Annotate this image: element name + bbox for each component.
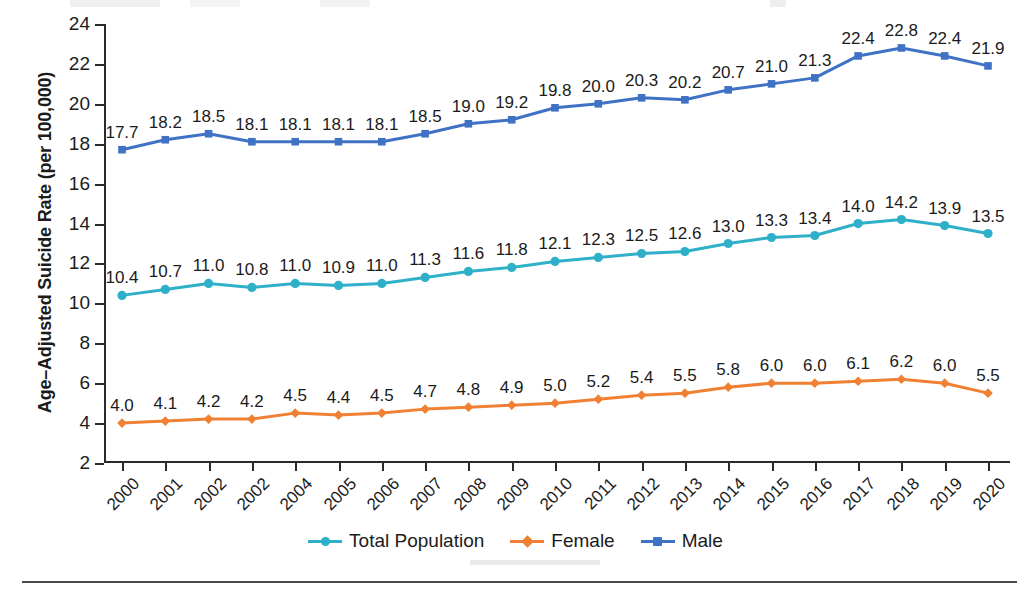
legend-label: Female (551, 530, 614, 552)
data-point-label: 4.2 (197, 392, 221, 412)
data-point-marker (377, 408, 387, 418)
data-point-marker (464, 267, 473, 276)
data-point-marker (118, 146, 126, 154)
data-point-marker (117, 291, 126, 300)
data-point-label: 5.5 (976, 366, 1000, 386)
x-axis-tick (642, 463, 644, 471)
data-point-marker (811, 74, 819, 82)
data-point-marker (767, 233, 776, 242)
data-point-marker (161, 285, 170, 294)
data-point-label: 18.1 (279, 115, 312, 135)
data-point-marker (680, 388, 690, 398)
data-point-marker (897, 215, 906, 224)
data-point-label: 10.7 (149, 262, 182, 282)
legend-item[interactable]: Total Population (308, 530, 484, 552)
data-point-label: 19.2 (495, 93, 528, 113)
data-point-marker (551, 104, 559, 112)
x-axis-tick (685, 463, 687, 471)
x-axis-tick-label: 2009 (493, 474, 534, 515)
x-axis-tick-label: 2006 (363, 474, 404, 515)
y-axis-tick: 12 (95, 263, 104, 265)
data-point-label: 18.5 (192, 107, 225, 127)
data-point-marker (421, 273, 430, 282)
data-point-label: 5.4 (630, 368, 654, 388)
legend-item[interactable]: Male (641, 530, 723, 552)
y-axis-tick-label: 10 (69, 292, 90, 314)
data-point-marker (335, 138, 343, 146)
data-point-label: 12.6 (668, 224, 701, 244)
data-point-label: 13.5 (971, 207, 1004, 227)
data-point-label: 18.1 (322, 115, 355, 135)
data-point-marker (723, 382, 733, 392)
data-point-marker (853, 376, 863, 386)
x-axis-tick-label: 2002 (233, 474, 274, 515)
data-point-label: 5.8 (716, 360, 740, 380)
data-point-label: 21.9 (971, 39, 1004, 59)
data-point-marker (637, 249, 646, 258)
data-point-marker (681, 96, 689, 104)
plot-area: 24681012141618202224 2000200120022002200… (104, 24, 1010, 463)
data-point-marker (940, 378, 950, 388)
y-axis-tick-label: 16 (69, 173, 90, 195)
y-axis-tick: 16 (95, 184, 104, 186)
x-axis-tick-label: 2002 (190, 474, 231, 515)
data-point-marker (854, 219, 863, 228)
x-axis-tick-label: 2007 (406, 474, 447, 515)
data-point-marker (334, 410, 344, 420)
data-point-label: 5.2 (586, 372, 610, 392)
x-axis-tick-label: 2015 (753, 474, 794, 515)
x-axis-tick (555, 463, 557, 471)
data-point-label: 20.3 (625, 71, 658, 91)
y-axis-tick: 20 (95, 104, 104, 106)
y-axis-tick-label: 2 (79, 452, 90, 474)
footer-divider (22, 581, 1017, 583)
legend-label: Male (682, 530, 723, 552)
y-axis-tick-label: 20 (69, 93, 90, 115)
data-point-label: 21.0 (755, 57, 788, 77)
y-axis-tick: 2 (95, 463, 104, 465)
data-point-label: 18.1 (235, 115, 268, 135)
data-point-marker (854, 52, 862, 60)
data-point-label: 13.3 (755, 211, 788, 231)
data-point-marker (767, 378, 777, 388)
x-axis-tick (512, 463, 514, 471)
x-axis-tick (728, 463, 730, 471)
data-point-label: 19.8 (538, 81, 571, 101)
data-point-label: 12.3 (582, 230, 615, 250)
data-point-label: 17.7 (105, 123, 138, 143)
data-point-label: 12.1 (538, 234, 571, 254)
legend-marker-icon (641, 534, 675, 548)
data-point-marker (205, 130, 213, 138)
y-axis-tick-label: 22 (69, 53, 90, 75)
data-point-label: 11.0 (279, 256, 311, 276)
data-point-marker (594, 253, 603, 262)
data-point-marker (768, 80, 776, 88)
data-point-label: 6.0 (803, 356, 827, 376)
data-point-label: 5.5 (673, 366, 697, 386)
data-point-marker (162, 136, 170, 144)
data-point-label: 20.2 (668, 73, 701, 93)
data-point-label: 6.2 (890, 352, 914, 372)
y-axis-tick: 4 (95, 423, 104, 425)
legend-marker-icon (308, 534, 342, 548)
y-axis-tick: 6 (95, 383, 104, 385)
data-point-label: 20.7 (712, 63, 745, 83)
data-point-marker (550, 257, 559, 266)
x-axis-tick (858, 463, 860, 471)
data-point-label: 18.5 (409, 107, 442, 127)
x-axis-tick-label: 2013 (666, 474, 707, 515)
x-axis-tick (382, 463, 384, 471)
data-point-marker (680, 247, 689, 256)
data-point-marker (247, 283, 256, 292)
data-point-marker (247, 414, 257, 424)
data-point-label: 22.4 (928, 29, 961, 49)
x-axis-tick (988, 463, 990, 471)
x-axis-tick-label: 2016 (796, 474, 837, 515)
x-axis-tick (945, 463, 947, 471)
data-point-marker (377, 279, 386, 288)
x-axis-tick (815, 463, 817, 471)
data-point-marker (378, 138, 386, 146)
data-point-label: 10.9 (322, 258, 355, 278)
x-axis-tick (122, 463, 124, 471)
legend-item[interactable]: Female (510, 530, 614, 552)
